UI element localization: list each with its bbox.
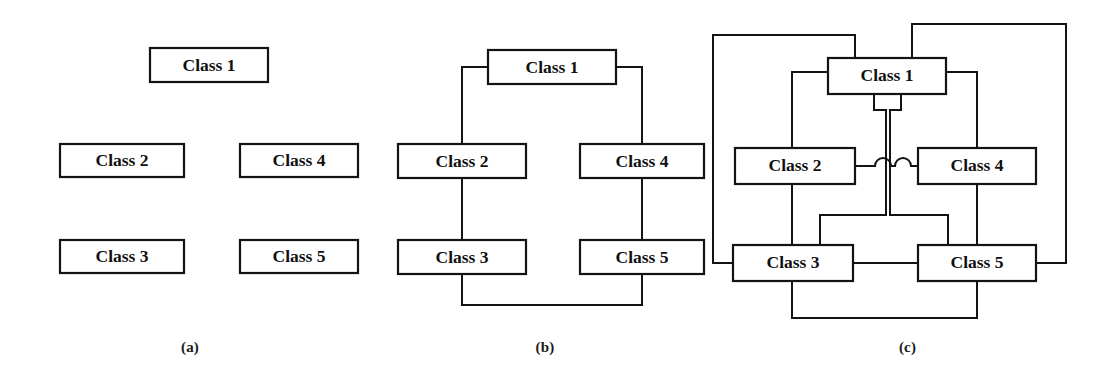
node-class2: Class 2 xyxy=(398,144,526,178)
node-class4: Class 4 xyxy=(240,144,358,177)
node-label: Class 3 xyxy=(96,246,149,266)
node-class1: Class 1 xyxy=(488,50,616,84)
node-label: Class 4 xyxy=(951,155,1004,175)
node-label: Class 1 xyxy=(861,65,914,85)
edge-class1-class2 xyxy=(792,72,828,148)
node-label: Class 4 xyxy=(616,151,669,171)
node-class3: Class 3 xyxy=(398,240,526,274)
node-label: Class 3 xyxy=(436,247,489,267)
node-label: Class 2 xyxy=(436,151,489,171)
panel-a-canvas: Class 1 Class 2 Class 4 Class 3 Class 5 xyxy=(0,0,380,378)
panel-c-caption: (c) xyxy=(700,339,1115,356)
panel-a-caption: (a) xyxy=(0,339,380,356)
panel-a: Class 1 Class 2 Class 4 Class 3 Class 5 xyxy=(0,0,380,378)
node-class1: Class 1 xyxy=(150,48,268,82)
node-class3: Class 3 xyxy=(733,245,853,281)
node-class5: Class 5 xyxy=(580,240,704,274)
panel-c-canvas: Class 1 Class 2 Class 4 Class 3 Class 5 xyxy=(700,0,1115,378)
node-class4: Class 4 xyxy=(918,148,1036,184)
node-class1: Class 1 xyxy=(828,58,946,94)
node-class2: Class 2 xyxy=(735,148,855,184)
node-label: Class 5 xyxy=(951,252,1004,272)
node-label: Class 3 xyxy=(767,252,820,272)
edge-class1-class2 xyxy=(462,67,488,144)
edge-class3-class5 xyxy=(462,274,642,305)
edge-class1-class4 xyxy=(946,72,977,148)
node-label: Class 5 xyxy=(616,247,669,267)
node-label: Class 2 xyxy=(96,150,149,170)
node-label: Class 5 xyxy=(273,246,326,266)
panel-b-caption: (b) xyxy=(380,339,710,356)
node-class3: Class 3 xyxy=(60,240,184,273)
panel-b-canvas: Class 1 Class 2 Class 4 Class 3 Class 5 xyxy=(380,0,710,378)
panel-c: Class 1 Class 2 Class 4 Class 3 Class 5 xyxy=(700,0,1115,378)
edge-class1-class4 xyxy=(616,67,642,144)
node-label: Class 2 xyxy=(769,155,822,175)
node-class5: Class 5 xyxy=(918,245,1036,281)
node-class4: Class 4 xyxy=(580,144,704,178)
panel-b: Class 1 Class 2 Class 4 Class 3 Class 5 xyxy=(380,0,710,378)
node-label: Class 4 xyxy=(273,150,326,170)
edge-class3-bottom-rail xyxy=(792,281,977,318)
node-class5: Class 5 xyxy=(240,240,358,273)
node-class2: Class 2 xyxy=(60,144,184,177)
figure-class-coupling: Class 1 Class 2 Class 4 Class 3 Class 5 xyxy=(0,0,1115,378)
node-label: Class 1 xyxy=(526,57,579,77)
node-label: Class 1 xyxy=(183,55,236,75)
